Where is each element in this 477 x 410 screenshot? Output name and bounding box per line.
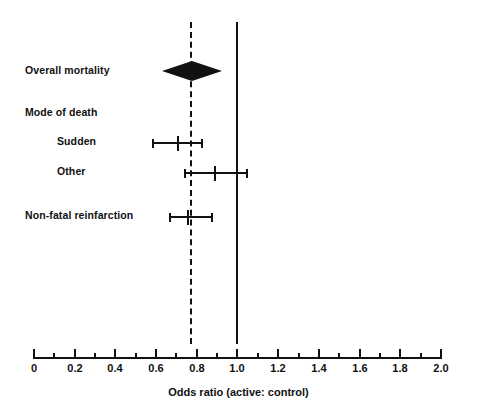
ci-point-estimate-other bbox=[214, 166, 216, 181]
null-effect-line bbox=[236, 22, 238, 344]
x-tick-major-0.8 bbox=[196, 349, 198, 358]
row-label-sudden: Sudden bbox=[57, 135, 96, 147]
row-label-mode-of-death: Mode of death bbox=[25, 106, 97, 118]
ci-line-non-fatal-reinfarction bbox=[169, 216, 213, 218]
x-tick-minor-0.7 bbox=[175, 353, 177, 358]
ci-cap-low-non-fatal-reinfarction bbox=[169, 213, 171, 222]
x-tick-major-0.4 bbox=[114, 349, 116, 358]
x-tick-label-0.8: 0.8 bbox=[189, 362, 204, 374]
row-label-overall-mortality: Overall mortality bbox=[25, 64, 110, 76]
x-tick-major-1.8 bbox=[399, 349, 401, 358]
ci-cap-low-other bbox=[184, 169, 186, 178]
x-tick-label-0.6: 0.6 bbox=[148, 362, 163, 374]
ci-cap-low-sudden bbox=[152, 139, 154, 148]
x-tick-minor-0.5 bbox=[135, 353, 137, 358]
x-tick-major-1.4 bbox=[318, 349, 320, 358]
x-tick-minor-1.3 bbox=[298, 353, 300, 358]
x-tick-major-2.0 bbox=[440, 349, 442, 358]
x-tick-label-0: 0 bbox=[31, 362, 37, 374]
x-tick-minor-1.1 bbox=[257, 353, 259, 358]
ci-cap-high-other bbox=[246, 169, 248, 178]
row-label-non-fatal-reinfarction: Non-fatal reinfarction bbox=[25, 209, 133, 221]
x-tick-label-0.2: 0.2 bbox=[67, 362, 82, 374]
ci-cap-high-non-fatal-reinfarction bbox=[211, 213, 213, 222]
x-tick-label-1.8: 1.8 bbox=[392, 362, 407, 374]
ci-point-estimate-non-fatal-reinfarction bbox=[187, 210, 189, 225]
x-tick-major-0 bbox=[33, 349, 35, 358]
x-tick-major-0.6 bbox=[155, 349, 157, 358]
x-tick-label-0.4: 0.4 bbox=[107, 362, 122, 374]
summary-diamond-overall-mortality bbox=[162, 58, 222, 84]
x-tick-label-1.2: 1.2 bbox=[270, 362, 285, 374]
x-tick-major-0.2 bbox=[74, 349, 76, 358]
plot-area: Overall mortality Mode of death Sudden O… bbox=[0, 0, 477, 410]
x-tick-label-1.0: 1.0 bbox=[229, 362, 244, 374]
ci-line-other bbox=[184, 172, 248, 174]
x-tick-minor-1.9 bbox=[420, 353, 422, 358]
x-tick-label-1.4: 1.4 bbox=[311, 362, 326, 374]
x-tick-minor-1.7 bbox=[379, 353, 381, 358]
x-tick-major-1.0 bbox=[236, 349, 238, 358]
x-tick-minor-0.9 bbox=[216, 353, 218, 358]
x-tick-major-1.2 bbox=[277, 349, 279, 358]
row-label-other: Other bbox=[57, 165, 86, 177]
x-tick-minor-1.5 bbox=[338, 353, 340, 358]
x-tick-label-1.6: 1.6 bbox=[352, 362, 367, 374]
x-tick-major-1.6 bbox=[359, 349, 361, 358]
ci-point-estimate-sudden bbox=[177, 136, 179, 151]
forest-plot: Overall mortality Mode of death Sudden O… bbox=[0, 0, 477, 410]
x-tick-label-2.0: 2.0 bbox=[433, 362, 448, 374]
x-axis-title: Odds ratio (active: control) bbox=[0, 386, 477, 398]
ci-cap-high-sudden bbox=[201, 139, 203, 148]
x-tick-minor-0.1 bbox=[53, 353, 55, 358]
x-tick-minor-0.3 bbox=[94, 353, 96, 358]
